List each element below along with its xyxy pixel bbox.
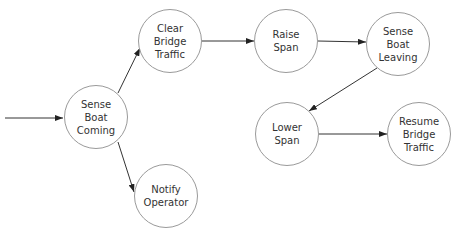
edge-sense-coming-to-clear-traffic <box>118 48 140 93</box>
node-notify-operator: Notify Operator <box>134 164 198 228</box>
node-label: Lower Span <box>272 121 302 147</box>
node-label: Sense Boat Coming <box>77 98 115 137</box>
node-clear-bridge-traffic: Clear Bridge Traffic <box>138 9 202 73</box>
edge-sense-leaving-to-lower-span <box>309 68 377 111</box>
flow-diagram: Sense Boat Coming Clear Bridge Traffic R… <box>0 0 457 232</box>
node-sense-boat-leaving: Sense Boat Leaving <box>366 12 430 76</box>
node-lower-span: Lower Span <box>255 102 319 166</box>
node-label: Clear Bridge Traffic <box>154 22 187 61</box>
node-resume-bridge-traffic: Resume Bridge Traffic <box>387 102 451 166</box>
node-raise-span: Raise Span <box>254 9 318 73</box>
node-sense-boat-coming: Sense Boat Coming <box>64 85 128 149</box>
node-label: Resume Bridge Traffic <box>399 115 439 154</box>
node-label: Sense Boat Leaving <box>378 25 417 64</box>
node-label: Notify Operator <box>144 183 189 209</box>
edge-raise-span-to-sense-leaving <box>318 41 366 42</box>
edge-sense-coming-to-notify-operator <box>118 142 134 192</box>
node-label: Raise Span <box>273 28 300 54</box>
